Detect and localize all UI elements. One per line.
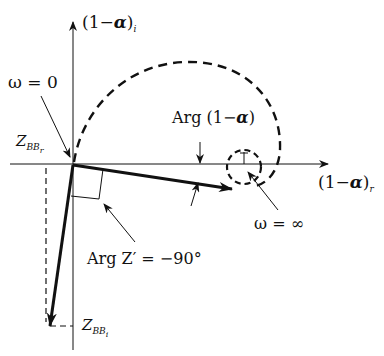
omega-infinity-label: ω = ∞: [254, 216, 304, 232]
arg-one-minus-alpha-alpha: α: [236, 108, 248, 127]
vertical-axis-label-sub: i: [133, 24, 136, 34]
arg-one-minus-alpha-prefix: Arg (1−: [172, 108, 236, 127]
right-angle-marker: [71, 169, 103, 199]
z-bb-i-subsub: i: [106, 330, 109, 339]
z-bb-r-label: ZBBr: [16, 134, 44, 155]
z-bb-i-sub: BBi: [92, 326, 108, 336]
arg-one-minus-alpha-pointer-bottom: [191, 183, 198, 206]
omega-zero-pointer: [41, 96, 70, 157]
horizontal-axis-label-text: (1−: [318, 172, 350, 192]
z-bb-r-main: Z: [16, 132, 26, 150]
omega-infinity-pointer: [248, 172, 278, 210]
vertical-axis-label: (1−α)i: [82, 14, 136, 34]
arg-one-minus-alpha-close: ): [249, 108, 255, 127]
z-bb-r-sub-text: BB: [26, 142, 39, 152]
horizontal-axis-label-alpha: α: [350, 172, 363, 192]
z-bb-i-main: Z: [82, 316, 92, 334]
vertical-axis-label-alpha: α: [114, 12, 127, 32]
one-minus-alpha-vector: [73, 165, 232, 189]
z-bb-i-label: ZBBi: [82, 318, 108, 339]
z-bb-i-sub-text: BB: [92, 326, 105, 336]
omega-zero-label: ω = 0: [8, 74, 58, 91]
vertical-axis-label-text: (1−: [82, 12, 114, 32]
horizontal-axis-label: (1−α)r: [318, 174, 374, 194]
arg-z-prime-label: Arg Z′ = −90°: [87, 251, 202, 267]
z-bb-r-subsub: r: [40, 146, 44, 155]
arg-one-minus-alpha-label: Arg (1−α): [172, 110, 255, 126]
horizontal-axis-label-sub: r: [369, 184, 373, 194]
z-bb-vector: [50, 165, 73, 326]
arg-z-prime-pointer: [104, 204, 135, 242]
z-bb-r-sub: BBr: [26, 142, 43, 152]
